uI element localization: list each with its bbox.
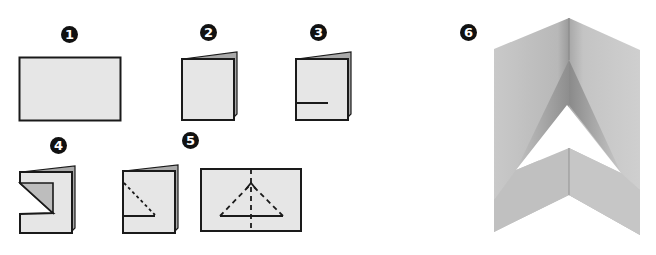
step-5-unfolded-triangle	[201, 169, 301, 231]
step-6-finished-popup	[494, 18, 640, 235]
folding-diagram	[0, 0, 656, 255]
step-1-flat-sheet	[20, 58, 121, 121]
step-5-fold-line	[123, 165, 178, 233]
step-2-folded-sheet	[182, 52, 237, 120]
step-4-flap-fold	[20, 166, 75, 233]
step-3-slit	[296, 52, 351, 120]
